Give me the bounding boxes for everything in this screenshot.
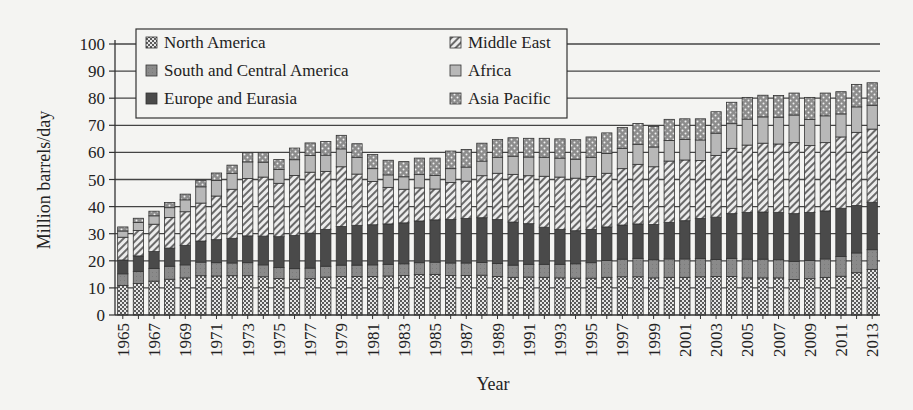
legend-swatch-icon bbox=[146, 65, 157, 76]
bar-segment bbox=[758, 117, 768, 143]
bar-segment bbox=[867, 129, 877, 202]
bar-segment bbox=[289, 269, 299, 280]
bar-segment bbox=[243, 236, 253, 263]
bar-segment bbox=[695, 219, 705, 259]
bar-segment bbox=[711, 133, 721, 155]
bar-segment bbox=[851, 84, 861, 106]
x-tick-label: 1969 bbox=[176, 323, 195, 357]
bar-segment bbox=[727, 124, 737, 149]
bar-segment bbox=[851, 206, 861, 253]
bar-segment bbox=[680, 119, 690, 140]
bar-segment bbox=[321, 155, 331, 171]
bar-segment bbox=[617, 225, 627, 259]
bar-segment bbox=[149, 281, 159, 315]
bar-segment bbox=[492, 139, 502, 157]
bar-stack bbox=[243, 153, 253, 315]
bar-segment bbox=[570, 264, 580, 278]
bar-segment bbox=[414, 175, 424, 188]
bar-segment bbox=[602, 261, 612, 278]
bar-segment bbox=[196, 203, 206, 241]
legend-swatch-icon bbox=[146, 93, 157, 104]
bar-segment bbox=[820, 93, 830, 116]
x-tick-label: 2011 bbox=[832, 323, 851, 356]
x-tick-label: 1971 bbox=[207, 323, 226, 357]
bar-segment bbox=[851, 107, 861, 132]
bar-segment bbox=[524, 224, 534, 265]
bar-segment bbox=[586, 229, 596, 262]
bar-segment bbox=[773, 95, 783, 117]
x-axis-ticks: 1965196719691971197319751977197919811983… bbox=[114, 315, 882, 357]
bar-segment bbox=[695, 259, 705, 277]
bar-segment bbox=[836, 92, 846, 114]
bar-segment bbox=[805, 279, 815, 315]
bar-stack bbox=[867, 83, 877, 315]
bar-segment bbox=[430, 189, 440, 220]
bar-stack bbox=[555, 139, 565, 315]
bar-stack bbox=[789, 93, 799, 315]
bar-segment bbox=[211, 196, 221, 240]
bar-stack bbox=[149, 211, 159, 315]
x-tick-label: 2007 bbox=[770, 323, 789, 358]
bar-segment bbox=[742, 97, 752, 119]
bar-segment bbox=[555, 158, 565, 177]
bar-segment bbox=[648, 278, 658, 315]
bar-segment bbox=[336, 135, 346, 149]
bar-segment bbox=[133, 230, 143, 255]
bar-segment bbox=[352, 157, 362, 174]
bar-stack bbox=[617, 127, 627, 315]
bar-segment bbox=[664, 119, 674, 140]
bar-stack bbox=[164, 203, 174, 315]
bar-segment bbox=[164, 248, 174, 266]
bar-segment bbox=[570, 231, 580, 264]
bar-segment bbox=[773, 144, 783, 212]
bar-stack bbox=[399, 162, 409, 315]
bar-stack bbox=[336, 135, 346, 315]
bar-segment bbox=[321, 229, 331, 266]
bar-stack bbox=[367, 155, 377, 315]
bar-segment bbox=[773, 212, 783, 259]
bar-segment bbox=[555, 139, 565, 158]
x-tick-label: 2013 bbox=[863, 323, 882, 357]
bar-segment bbox=[711, 112, 721, 133]
bar-segment bbox=[524, 176, 534, 224]
bar-segment bbox=[133, 223, 143, 231]
bar-stack bbox=[383, 160, 393, 315]
bar-segment bbox=[570, 140, 580, 160]
x-tick-label: 1985 bbox=[426, 323, 445, 357]
bar-segment bbox=[867, 250, 877, 270]
bar-segment bbox=[617, 127, 627, 148]
bar-segment bbox=[742, 213, 752, 260]
bar-segment bbox=[602, 133, 612, 154]
bar-segment bbox=[149, 268, 159, 281]
bar-segment bbox=[383, 264, 393, 276]
bar-segment bbox=[321, 277, 331, 315]
bar-stack bbox=[695, 119, 705, 315]
bar-stack bbox=[539, 138, 549, 315]
bar-segment bbox=[446, 151, 456, 169]
bar-stack bbox=[711, 112, 721, 315]
bar-stack bbox=[727, 102, 737, 315]
x-tick-label: 1975 bbox=[270, 323, 289, 357]
bar-segment bbox=[664, 259, 674, 277]
bar-segment bbox=[477, 275, 487, 315]
bar-stack bbox=[227, 165, 237, 315]
bar-stack bbox=[586, 137, 596, 315]
bar-segment bbox=[773, 117, 783, 144]
bar-segment bbox=[118, 227, 128, 231]
legend-swatch-icon bbox=[450, 37, 461, 48]
bar-segment bbox=[758, 259, 768, 278]
bar-segment bbox=[680, 160, 690, 221]
bar-segment bbox=[399, 177, 409, 189]
bar-segment bbox=[477, 143, 487, 161]
x-tick-label: 1983 bbox=[395, 323, 414, 357]
bar-segment bbox=[180, 212, 190, 246]
bar-segment bbox=[274, 268, 284, 279]
bar-segment bbox=[321, 142, 331, 156]
bar-segment bbox=[336, 265, 346, 276]
bar-segment bbox=[305, 268, 315, 279]
chart-canvas: 0102030405060708090100 19651967196919711… bbox=[0, 0, 913, 410]
bar-stack bbox=[446, 151, 456, 315]
bar-segment bbox=[555, 177, 565, 229]
bar-segment bbox=[524, 157, 534, 176]
x-tick-label: 1993 bbox=[551, 323, 570, 357]
